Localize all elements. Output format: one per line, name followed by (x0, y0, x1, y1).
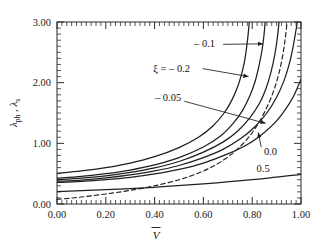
x-axis-label-text: V (153, 229, 161, 241)
annotation-4-label: 0.5 (257, 163, 270, 174)
x-tick-label: 0.80 (243, 209, 261, 220)
chart-svg: 0.000.200.400.600.801.00 0.001.002.003.0… (0, 0, 322, 245)
x-tick-label: 1.00 (292, 209, 310, 220)
y-axis-label: λph , λs (7, 99, 22, 128)
y-tick-label: 1.00 (33, 138, 51, 149)
annotation-1-label: ξ = – 0.2 (153, 63, 190, 75)
figure-container: 0.000.200.400.600.801.00 0.001.002.003.0… (0, 0, 322, 245)
y-axis-label-text: λph , λs (7, 99, 22, 128)
x-tick-label: 0.40 (145, 209, 163, 220)
annotation-3-label: 0.0 (264, 146, 277, 157)
x-tick-label: 0.00 (48, 209, 66, 220)
x-tick-label: 0.20 (97, 209, 115, 220)
y-tick-label: 2.00 (33, 77, 51, 88)
x-tick-labels: 0.000.200.400.600.801.00 (48, 209, 310, 220)
x-tick-label: 0.60 (194, 209, 212, 220)
annotation-2-label: – 0.05 (154, 92, 181, 103)
y-tick-label: 0.00 (33, 199, 51, 210)
annotation-1-arrowhead (243, 74, 249, 78)
y-tick-label: 3.00 (33, 17, 51, 28)
x-axis-label: V (152, 228, 161, 242)
y-tick-labels: 0.001.002.003.00 (33, 17, 51, 210)
curve-6 (57, 24, 287, 199)
annotation-0-leader (223, 44, 263, 45)
annotation-0-label: – 0.1 (193, 38, 215, 49)
